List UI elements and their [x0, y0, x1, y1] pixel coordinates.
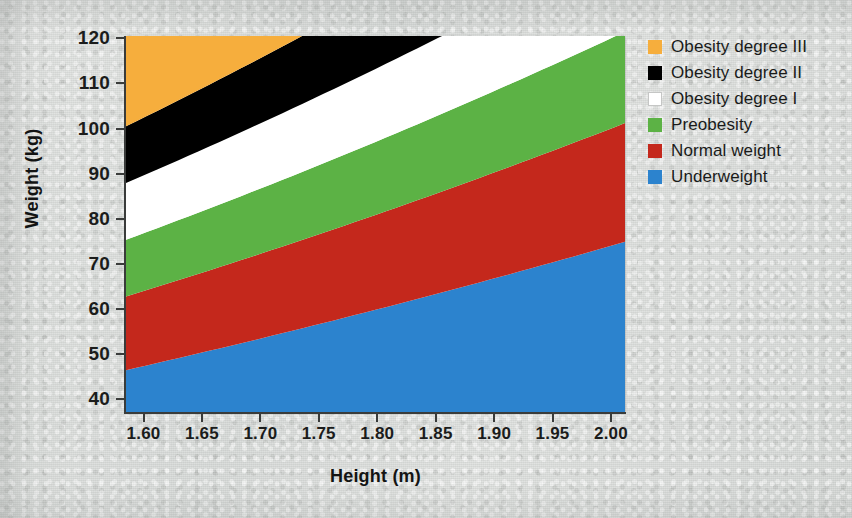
y-axis-tick-label: 50: [44, 343, 110, 365]
y-axis-tick: [116, 173, 124, 175]
x-axis-tick-label: 1.70: [243, 424, 277, 444]
x-axis-tick-label: 1.90: [477, 424, 511, 444]
legend-item[interactable]: Preobesity: [648, 112, 848, 138]
legend-swatch-icon: [648, 40, 662, 54]
x-axis-tick: [201, 414, 203, 422]
y-axis-tick: [116, 37, 124, 39]
legend-item-label: Obesity degree I: [671, 89, 797, 109]
y-axis-tick-label: 70: [44, 253, 110, 275]
legend-item-label: Obesity degree III: [671, 37, 807, 57]
legend-swatch-icon: [648, 92, 662, 106]
y-axis-tick: [116, 398, 124, 400]
scanned-page: 120110100908070605040 1.601.651.701.751.…: [0, 0, 852, 518]
x-axis-tick: [610, 414, 612, 422]
y-axis-tick: [116, 128, 124, 130]
x-axis-tick: [318, 414, 320, 422]
y-axis-tick-label: 120: [44, 27, 110, 49]
x-axis-tick-label: 1.65: [185, 424, 219, 444]
legend-swatch-icon: [648, 170, 662, 184]
y-axis-tick-label: 100: [44, 118, 110, 140]
y-axis-tick-label: 80: [44, 208, 110, 230]
legend-item-label: Preobesity: [671, 115, 752, 135]
legend-item-label: Underweight: [671, 167, 768, 187]
legend: Obesity degree IIIObesity degree IIObesi…: [648, 34, 848, 190]
x-axis-tick-label: 1.60: [127, 424, 161, 444]
y-axis-tick: [116, 263, 124, 265]
legend-item[interactable]: Obesity degree III: [648, 34, 848, 60]
x-axis-tick: [552, 414, 554, 422]
y-axis-line: [124, 36, 126, 413]
x-axis-tick-label: 1.75: [302, 424, 336, 444]
legend-item[interactable]: Obesity degree II: [648, 60, 848, 86]
legend-item-label: Obesity degree II: [671, 63, 802, 83]
y-axis-tick-label: 40: [44, 388, 110, 410]
x-axis-tick: [143, 414, 145, 422]
plot-area: [126, 36, 625, 412]
y-axis-tick: [116, 82, 124, 84]
x-axis-tick-label: 1.95: [536, 424, 570, 444]
legend-swatch-icon: [648, 144, 662, 158]
x-axis-tick-label: 1.85: [419, 424, 453, 444]
y-axis-tick: [116, 353, 124, 355]
x-axis-tick: [376, 414, 378, 422]
y-axis-tick-label: 110: [44, 72, 110, 94]
legend-item[interactable]: Obesity degree I: [648, 86, 848, 112]
y-axis-tick-label: 60: [44, 298, 110, 320]
legend-swatch-icon: [648, 66, 662, 80]
bmi-bands: [126, 36, 625, 412]
y-axis-tick: [116, 218, 124, 220]
x-axis-tick: [493, 414, 495, 422]
legend-item[interactable]: Underweight: [648, 164, 848, 190]
legend-swatch-icon: [648, 118, 662, 132]
legend-item[interactable]: Normal weight: [648, 138, 848, 164]
x-axis-tick-label: 1.80: [360, 424, 394, 444]
x-axis-tick: [435, 414, 437, 422]
y-axis-tick-label: 90: [44, 163, 110, 185]
y-axis-tick: [116, 308, 124, 310]
x-axis-tick-label: 2.00: [594, 424, 628, 444]
bmi-classification-chart: 120110100908070605040 1.601.651.701.751.…: [0, 0, 852, 518]
legend-item-label: Normal weight: [671, 141, 781, 161]
y-axis-title: Weight (kg): [22, 99, 43, 259]
x-axis-tick: [259, 414, 261, 422]
x-axis-title: Height (m): [126, 466, 625, 487]
